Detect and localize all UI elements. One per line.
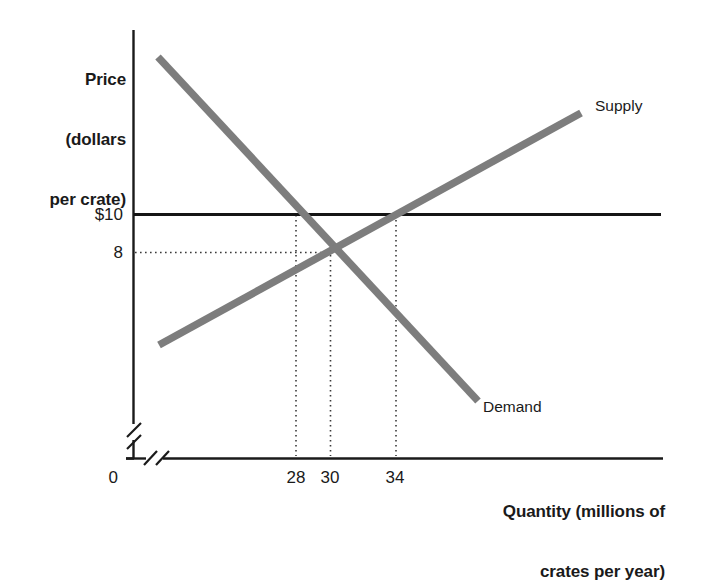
demand-curve-label: Demand	[483, 398, 542, 416]
supply-curve	[159, 113, 581, 345]
demand-curve	[158, 57, 478, 401]
y-axis-title-line-1: Price	[0, 70, 126, 90]
x-axis-title-line-2: crates per year)	[380, 562, 665, 582]
x-axis-title-line-1: Quantity (millions of	[380, 502, 665, 522]
y-tick-label-8: 8	[55, 243, 123, 263]
y-axis-title-line-2: (dollars	[0, 130, 126, 150]
x-tick-label-34: 34	[375, 468, 415, 488]
x-tick-label-30: 30	[310, 468, 350, 488]
x-axis-title: Quantity (millions of crates per year)	[380, 462, 665, 584]
y-axis-break-mark-1	[127, 423, 141, 437]
origin-label: 0	[86, 468, 118, 488]
y-tick-label-10: $10	[55, 205, 123, 225]
supply-curve-label: Supply	[595, 97, 642, 115]
